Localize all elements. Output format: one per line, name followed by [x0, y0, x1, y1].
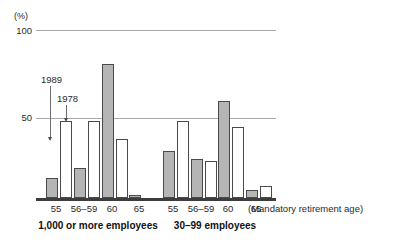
bar-1989-1-000-or-more-employees-age-56-59 [74, 168, 86, 198]
x-tick-g1-55: 55 [51, 203, 62, 214]
x-axis-note: (Mandatory retirement age) [248, 203, 363, 214]
annotation-leader-line-1978 [66, 105, 67, 119]
bar-1978-30-99-employees-age-65 [260, 186, 272, 198]
x-tick-g2-55: 55 [168, 203, 179, 214]
bar-1978-30-99-employees-age-56-59 [205, 161, 217, 198]
bar-1978-1-000-or-more-employees-age-60 [116, 139, 128, 198]
x-tick-g1-60: 60 [107, 203, 118, 214]
bar-1989-1-000-or-more-employees-age-60 [102, 64, 114, 198]
x-tick-g2-60: 60 [223, 203, 234, 214]
bar-1978-30-99-employees-age-55 [177, 121, 189, 198]
annotation-label-1978: 1978 [57, 93, 78, 104]
bar-1989-30-99-employees-age-56-59 [191, 159, 203, 198]
group-caption-1000-or-more: 1,000 or more employees [38, 220, 158, 231]
bar-1978-30-99-employees-age-60 [232, 127, 244, 198]
bar-1989-30-99-employees-age-65 [246, 190, 258, 198]
x-tick-g1-56-59: 56–59 [71, 203, 97, 214]
x-tick-g1-65: 65 [134, 203, 145, 214]
group-caption-30-99: 30–99 employees [174, 220, 256, 231]
bar-chart: (%) 100 50 1989 1978 55 56–59 60 65 55 5… [0, 0, 394, 247]
bar-1978-1-000-or-more-employees-age-56-59 [88, 121, 100, 198]
bar-1978-1-000-or-more-employees-age-55 [60, 121, 72, 198]
bar-1989-1-000-or-more-employees-age-55 [46, 178, 58, 198]
annotation-arrowhead-1978 [64, 118, 68, 122]
annotation-label-1989: 1989 [41, 74, 62, 85]
annotation-arrowhead-1989 [48, 137, 52, 141]
x-axis-baseline [36, 198, 276, 201]
x-tick-g2-56-59: 56–59 [188, 203, 214, 214]
annotation-leader-line-1989 [50, 86, 51, 138]
bar-1989-30-99-employees-age-55 [163, 151, 175, 198]
bar-1989-30-99-employees-age-60 [218, 101, 230, 198]
